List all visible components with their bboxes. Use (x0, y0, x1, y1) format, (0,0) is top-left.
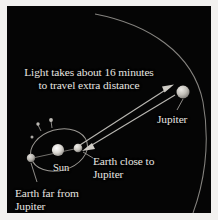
label-sun: Sun (53, 162, 69, 174)
sun-body (52, 144, 64, 156)
earth-close-body (74, 144, 83, 153)
label-earth-far: Earth far from Jupiter (15, 187, 111, 213)
orbit-diagram-canvas (7, 6, 211, 213)
leader-jupiter (177, 99, 183, 110)
diagram-frame: Light takes about 16 minutes to travel e… (7, 6, 211, 213)
label-earth-close: Earth close to Jupiter (93, 155, 173, 181)
diagram-figure: Light takes about 16 minutes to travel e… (0, 0, 218, 220)
caption-line-2: to travel extra distance (13, 79, 165, 92)
jupiter-body (177, 86, 190, 99)
earth-far-body (27, 154, 35, 162)
label-jupiter: Jupiter (157, 113, 187, 126)
jupiter-orbit-arc (95, 14, 206, 213)
caption-light-travel-time: Light takes about 16 minutes to travel e… (13, 66, 165, 92)
caption-line-1: Light takes about 16 minutes (24, 66, 153, 78)
